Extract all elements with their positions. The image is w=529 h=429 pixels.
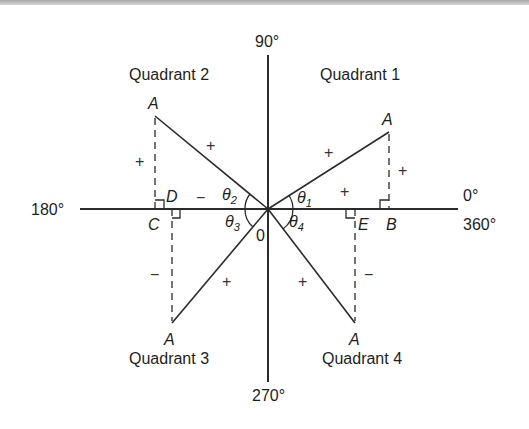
theta-4: θ4 (289, 213, 304, 233)
theta-2: θ2 (222, 186, 237, 206)
radius-q4 (268, 209, 355, 323)
sign-adj-q1: + (340, 183, 349, 200)
point-d: D (166, 188, 178, 205)
point-b: B (386, 216, 397, 233)
label-0: 0° (463, 187, 478, 204)
point-e: E (358, 216, 369, 233)
point-a-q1: A (381, 111, 393, 128)
label-270: 270° (252, 387, 285, 404)
point-a-q3: A (163, 331, 175, 348)
radius-q3 (172, 209, 268, 323)
theta-1: θ1 (297, 189, 312, 209)
sign-adj-q2: − (196, 189, 205, 206)
theta-3: θ3 (225, 213, 241, 233)
label-360: 360° (463, 216, 496, 233)
label-90: 90° (255, 33, 279, 50)
sign-opp-q3: − (150, 266, 159, 283)
quadrant-3-label: Quadrant 3 (129, 350, 209, 367)
angle-arc-3 (245, 209, 253, 227)
point-a-q2: A (147, 95, 159, 112)
sign-opp-q2: + (135, 153, 144, 170)
sign-hyp-q4: + (298, 273, 307, 290)
quadrant-diagram: 90° 180° 0° 360° 270° 0 Quadrant 1 Quadr… (0, 0, 529, 429)
right-angle-q3 (172, 209, 180, 218)
sign-opp-q1: + (398, 162, 407, 179)
label-origin: 0 (256, 227, 265, 244)
quadrant-4-label: Quadrant 4 (322, 350, 402, 367)
sign-hyp-q3: + (222, 273, 231, 290)
angle-arc-2 (245, 194, 250, 209)
quadrant-2-label: Quadrant 2 (129, 66, 209, 83)
right-angle-q1 (380, 200, 389, 209)
point-a-q4: A (348, 331, 360, 348)
quadrant-1-label: Quadrant 1 (320, 66, 400, 83)
sign-hyp-q1: + (324, 144, 333, 161)
right-angle-q2 (155, 200, 164, 209)
sign-opp-q4: − (364, 266, 373, 283)
angle-arc-1 (289, 196, 293, 210)
right-angle-q4 (346, 209, 355, 218)
label-180: 180° (31, 201, 64, 218)
point-c: C (148, 216, 160, 233)
sign-hyp-q2: + (206, 137, 215, 154)
